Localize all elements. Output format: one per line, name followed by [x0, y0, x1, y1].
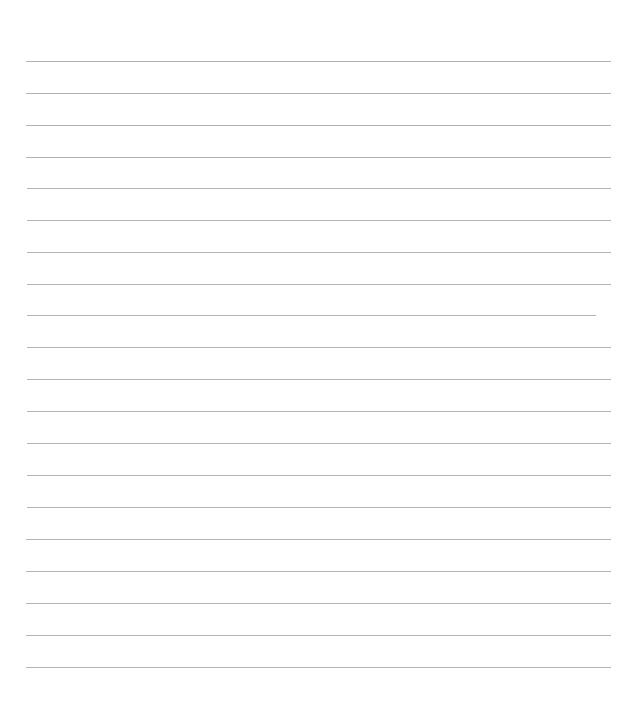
ruled-line: [27, 411, 611, 412]
ruled-line: [27, 443, 611, 444]
ruled-page: [0, 0, 639, 707]
ruled-line: [27, 284, 611, 285]
ruled-line: [26, 61, 611, 62]
ruled-line: [27, 220, 611, 221]
ruled-line: [26, 539, 611, 540]
ruled-line: [27, 347, 611, 348]
ruled-line: [26, 157, 611, 158]
ruled-line: [26, 635, 611, 636]
ruled-line: [26, 93, 611, 94]
ruled-line: [27, 507, 611, 508]
ruled-line: [26, 125, 611, 126]
ruled-line: [27, 252, 611, 253]
ruled-line: [26, 571, 611, 572]
ruled-line: [27, 475, 611, 476]
ruled-line: [27, 188, 611, 189]
ruled-line: [27, 379, 611, 380]
ruled-line: [27, 315, 596, 316]
ruled-line: [26, 603, 611, 604]
ruled-line: [26, 667, 611, 668]
